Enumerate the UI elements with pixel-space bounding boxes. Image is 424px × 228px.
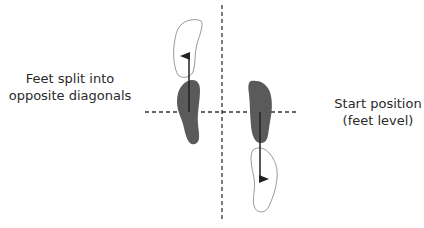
feet-diagram [0,0,424,228]
left-foot-outline-icon [174,20,202,78]
right-foot-outline-icon [251,148,277,212]
